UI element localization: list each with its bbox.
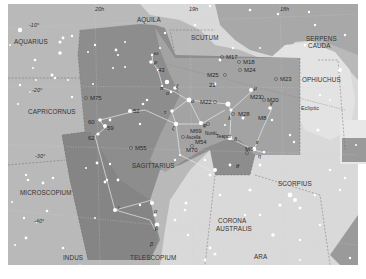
label-m55: M55	[135, 145, 147, 151]
label-omicron: o	[166, 90, 169, 96]
label-52: 52	[133, 108, 140, 114]
label-serpens: SERPENS	[306, 35, 337, 42]
label-cauda: CAUDA	[308, 42, 331, 49]
label-ophiuchus: OPHIUCHUS	[302, 76, 341, 83]
label-zeta: ζ	[172, 125, 175, 132]
label-60: 60	[88, 119, 95, 125]
label-43: 43	[158, 67, 165, 73]
label-m69: M69	[190, 128, 202, 134]
label-australis: AUSTRALIS	[216, 225, 252, 232]
star-chart: 20h 19h 18h -10° -20° -30° -40° AQUILA S…	[0, 0, 366, 279]
dec-label-40: -40°	[34, 218, 45, 224]
label-microscopium: MICROSCOPIUM	[20, 189, 72, 196]
label-omega: ω	[154, 50, 159, 56]
label-mu: μ	[253, 85, 257, 91]
label-teapot: Teapot	[216, 133, 232, 139]
label-scutum: SCUTUM	[191, 34, 219, 41]
label-m22: M22	[200, 99, 212, 105]
label-m6: M6	[245, 146, 254, 152]
label-62: 62	[88, 135, 95, 141]
dec-label-20: -20°	[32, 87, 43, 93]
label-m17: M17	[226, 54, 238, 60]
label-nunki: Nunki	[205, 131, 217, 136]
ra-label-20h: 20h	[94, 6, 104, 12]
label-pi: π	[160, 85, 164, 91]
label-m28: M28	[238, 111, 250, 117]
ra-label-18h: 18h	[280, 6, 289, 12]
label-21: 21	[209, 82, 216, 88]
label-59: 59	[107, 125, 114, 131]
inset-dark	[342, 138, 366, 162]
label-m23: M23	[280, 76, 292, 82]
label-m20: M20	[267, 97, 279, 103]
label-ara: ARA	[254, 253, 268, 260]
label-aquila: AQUILA	[137, 16, 161, 24]
label-phi: φ	[203, 122, 207, 128]
dec-label-10: -10°	[29, 22, 40, 28]
label-sagittarius: SAGITTARIUS	[132, 162, 175, 169]
label-m24: M24	[244, 67, 256, 73]
dec-label-30: -30°	[35, 153, 46, 159]
label-corona: CORONA	[218, 217, 247, 224]
label-m18: M18	[243, 59, 255, 65]
label-ascella: Ascella	[186, 135, 201, 140]
label-indus: INDUS	[63, 254, 83, 261]
label-m75: M75	[90, 95, 102, 101]
label-m8: M8	[258, 115, 267, 121]
label-m70: M70	[186, 147, 198, 153]
label-telescopium: TELESCOPIUM	[130, 254, 176, 261]
label-rho: ρ	[153, 59, 157, 65]
label-capricornus: CAPRICORNUS	[28, 108, 76, 115]
label-aquarius: AQUARIUS	[14, 38, 48, 46]
label-lambda: λ	[227, 115, 231, 121]
ra-label-19h: 19h	[189, 6, 198, 12]
label-m25: M25	[207, 72, 219, 78]
label-m21: M21	[250, 94, 262, 100]
label-eta: η	[258, 153, 261, 159]
label-ecliptic: Ecliptic	[301, 105, 319, 111]
label-scorpius: SCORPIUS	[278, 180, 312, 187]
label-theta: θ	[236, 163, 239, 169]
